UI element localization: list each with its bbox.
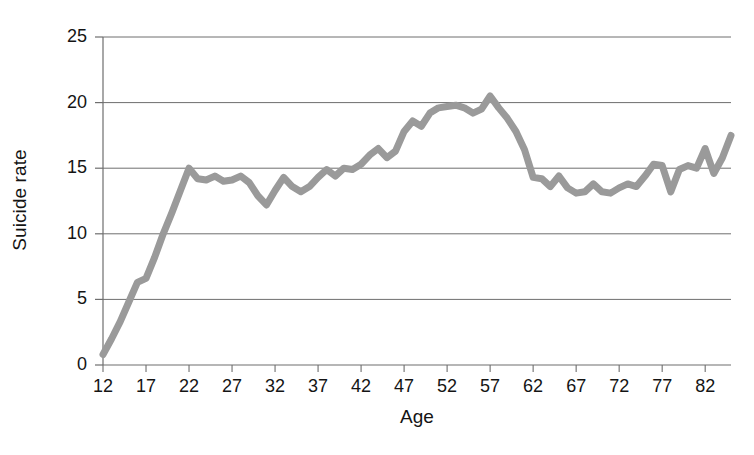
x-tick-label-82: 82 — [680, 376, 730, 397]
y-tick-marks-group — [95, 37, 103, 365]
y-tick-label-10: 10 — [39, 223, 87, 244]
y-tick-label-5: 5 — [39, 288, 87, 309]
y-tick-label-25: 25 — [39, 26, 87, 47]
y-tick-label-20: 20 — [39, 92, 87, 113]
x-axis-label-text: Age — [103, 406, 731, 428]
chart-figure: Suicide rate Age 12172227323742475257626… — [0, 0, 754, 455]
x-tick-marks-group — [103, 365, 705, 372]
data-series-group — [103, 96, 731, 354]
gridlines-group — [103, 37, 731, 365]
y-tick-label-15: 15 — [39, 157, 87, 178]
y-tick-label-0: 0 — [39, 354, 87, 375]
series-line-0 — [103, 96, 731, 354]
